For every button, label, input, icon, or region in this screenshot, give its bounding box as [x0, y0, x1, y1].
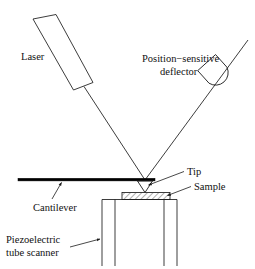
- label-scanner-line2: tube scanner: [6, 247, 59, 258]
- leader-line-cantilever: [52, 183, 62, 200]
- label-sample: Sample: [194, 181, 226, 192]
- label-scanner-line1: Piezoelectric: [6, 234, 61, 245]
- sample-hatch-fill: [122, 193, 169, 199]
- cantilever-beam: [18, 178, 155, 181]
- leader-line-sample: [168, 187, 192, 196]
- label-laser: Laser: [21, 51, 45, 62]
- leader-line-scanner: [70, 239, 100, 247]
- probe-tip: [138, 181, 153, 193]
- piezoelectric-tube-scanner-body: [102, 200, 177, 267]
- label-tip: Tip: [187, 166, 201, 177]
- label-detector-line2: deflector: [160, 66, 198, 77]
- incident-laser-beam: [84, 87, 145, 181]
- label-detector-line1: Position−sensitive: [142, 53, 219, 64]
- afm-schematic-figure: Laser Position−sensitive deflector Tip S…: [0, 0, 255, 269]
- afm-diagram-canvas: Laser Position−sensitive deflector Tip S…: [0, 0, 255, 269]
- label-cantilever: Cantilever: [33, 202, 77, 213]
